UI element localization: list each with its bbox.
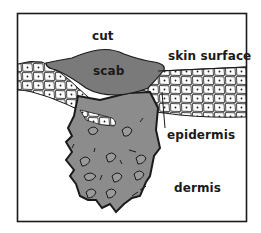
label-skin-surface: skin surface xyxy=(168,50,251,62)
label-epidermis: epidermis xyxy=(167,129,235,141)
skin-cut-diagram xyxy=(0,0,261,233)
label-cut: cut xyxy=(92,30,114,42)
label-scab: scab xyxy=(93,65,124,77)
label-dermis: dermis xyxy=(174,182,221,194)
